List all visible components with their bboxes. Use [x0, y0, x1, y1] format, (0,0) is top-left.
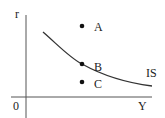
is-curve-diagram: r 0 Y IS A B C	[0, 0, 165, 118]
point-b-label: B	[94, 60, 102, 74]
point-a-label: A	[94, 20, 103, 34]
origin-label: 0	[13, 99, 19, 113]
point-a	[80, 24, 85, 29]
point-c-label: C	[94, 77, 102, 91]
y-axis-label: r	[15, 7, 19, 21]
point-b	[80, 62, 85, 67]
x-axis-label: Y	[138, 99, 147, 113]
point-c	[80, 80, 85, 85]
is-curve-label: IS	[146, 66, 157, 80]
